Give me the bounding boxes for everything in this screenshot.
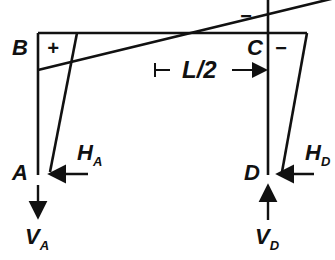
node-label-c: C — [247, 37, 263, 59]
reaction-ha-main: H — [77, 140, 93, 165]
negative-moment-sign-right: − — [275, 38, 287, 58]
reaction-hd-main: H — [305, 140, 321, 165]
node-label-b: B — [12, 37, 28, 59]
node-label-d: D — [244, 162, 260, 184]
negative-moment-sign-top: − — [240, 6, 252, 26]
dimension-label: L/2 — [182, 58, 217, 82]
reaction-vd-main: V — [255, 224, 270, 249]
reaction-va-main: V — [25, 224, 40, 249]
reaction-vd-sub: D — [270, 238, 279, 253]
node-label-a: A — [12, 162, 28, 184]
positive-moment-sign: + — [47, 38, 59, 58]
frame-diagram: B C A D + − − L/2 HA VA HD VD — [0, 0, 335, 260]
reaction-hd-sub: D — [321, 154, 330, 169]
reaction-ha-sub: A — [93, 154, 102, 169]
reaction-label-ha: HA — [77, 142, 102, 164]
reaction-label-va: VA — [25, 226, 49, 248]
reaction-label-hd: HD — [305, 142, 330, 164]
reaction-label-vd: VD — [255, 226, 279, 248]
reaction-va-sub: A — [40, 238, 49, 253]
